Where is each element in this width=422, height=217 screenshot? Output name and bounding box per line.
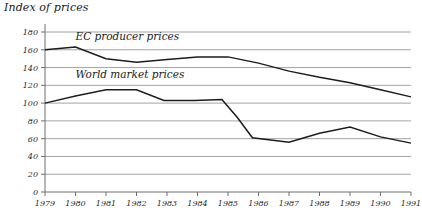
x-tick-label: 1987 — [279, 199, 300, 208]
y-tick-label: 120 — [23, 81, 38, 90]
x-tick-label: 1986 — [248, 199, 268, 208]
y-tick-label: 20 — [27, 170, 38, 179]
gridlines-group — [41, 32, 411, 192]
y-tick-label: 160 — [23, 46, 38, 55]
x-tick-label: 1984 — [187, 199, 207, 208]
series-line-world-market-prices — [45, 90, 411, 143]
x-tick-label: 1983 — [157, 199, 177, 208]
x-tick-label: 1991 — [401, 199, 421, 208]
series-annotation-label: EC producer prices — [75, 30, 180, 42]
x-tick-label: 1981 — [96, 199, 116, 208]
y-tick-label: 180 — [23, 28, 38, 37]
y-axis-tick-labels: 020406080100120140160180 — [23, 28, 38, 197]
x-tick-label: 1990 — [370, 199, 390, 208]
x-axis-tickmarks — [45, 192, 411, 196]
x-axis-tick-labels: 1979198019811982198319841985198619871988… — [35, 199, 421, 208]
x-tick-label: 1979 — [35, 199, 55, 208]
series-annotation-label: World market prices — [76, 68, 185, 80]
y-tick-label: 80 — [28, 117, 38, 126]
y-tick-label: 40 — [27, 152, 38, 161]
series-annotations-group: EC producer pricesWorld market prices — [75, 30, 185, 80]
data-series-group — [45, 47, 411, 143]
x-tick-label: 1980 — [65, 199, 85, 208]
x-tick-label: 1988 — [309, 199, 329, 208]
x-tick-label: 1989 — [340, 199, 360, 208]
chart-plot-area: 020406080100120140160180 197919801981198… — [0, 0, 422, 217]
y-tick-label: 100 — [23, 99, 38, 108]
y-tick-label: 140 — [23, 64, 38, 73]
x-tick-label: 1985 — [218, 199, 238, 208]
price-index-chart: Index of prices 020406080100120140160180… — [0, 0, 422, 217]
y-tick-label: 60 — [28, 135, 38, 144]
x-tick-label: 1982 — [126, 199, 146, 208]
y-tick-label: 0 — [33, 188, 38, 197]
